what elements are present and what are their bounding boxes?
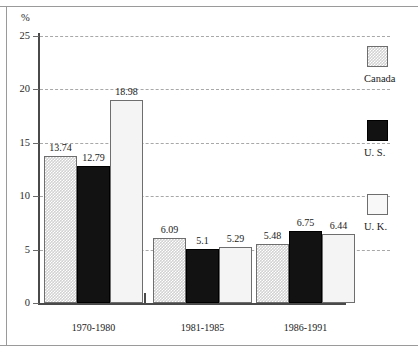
legend-swatch-uk <box>367 194 388 215</box>
bar-us-1986-1991 <box>289 231 322 303</box>
y-tick-label-25: 25 <box>0 31 30 42</box>
gridline-25 <box>40 36 390 37</box>
legend-label-uk: U. K. <box>364 221 387 232</box>
x-category-label-1986-1991: 1986-1991 <box>236 322 375 333</box>
bar-value-label-us-1970-1980: 12.79 <box>71 153 116 163</box>
y-tick-10 <box>33 196 39 197</box>
y-tick-25 <box>33 36 39 37</box>
bar-value-label-canada-1986-1991: 5.48 <box>250 231 295 241</box>
y-tick-label-20: 20 <box>0 84 30 95</box>
y-tick-20 <box>33 89 39 90</box>
y-axis-unit-label: % <box>21 12 30 23</box>
legend-label-canada: Canada <box>364 73 396 84</box>
y-tick-label-0: 0 <box>0 298 30 309</box>
bar-canada-1981-1985 <box>153 238 186 303</box>
legend-swatch-us <box>367 120 388 141</box>
bar-canada-1986-1991 <box>256 244 289 303</box>
bar-uk-1981-1985 <box>219 247 252 303</box>
y-tick-label-5: 5 <box>0 245 30 256</box>
bar-chart-plot-area: % 0510152025 13.7412.7918.986.095.15.295… <box>0 0 418 355</box>
gridline-15 <box>40 143 390 144</box>
bar-uk-1970-1980 <box>110 100 143 303</box>
bar-uk-1986-1991 <box>322 234 355 303</box>
bar-value-label-canada-1970-1980: 13.74 <box>38 143 83 153</box>
y-axis-line <box>38 33 40 304</box>
bar-value-label-uk-1986-1991: 6.44 <box>316 221 361 231</box>
y-tick-label-10: 10 <box>0 191 30 202</box>
bar-us-1970-1980 <box>77 166 110 303</box>
legend-label-us: U. S. <box>364 147 385 158</box>
y-tick-5 <box>33 250 39 251</box>
legend-swatch-canada <box>367 46 388 67</box>
bar-value-label-canada-1981-1985: 6.09 <box>147 225 192 235</box>
bar-us-1981-1985 <box>186 249 219 303</box>
bar-canada-1970-1980 <box>44 156 77 303</box>
x-axis-line <box>38 303 346 305</box>
bar-value-label-uk-1970-1980: 18.98 <box>104 87 149 97</box>
y-tick-label-15: 15 <box>0 138 30 149</box>
y-tick-0 <box>33 303 39 304</box>
x-tick-0 <box>144 293 146 304</box>
gridline-20 <box>40 89 390 90</box>
